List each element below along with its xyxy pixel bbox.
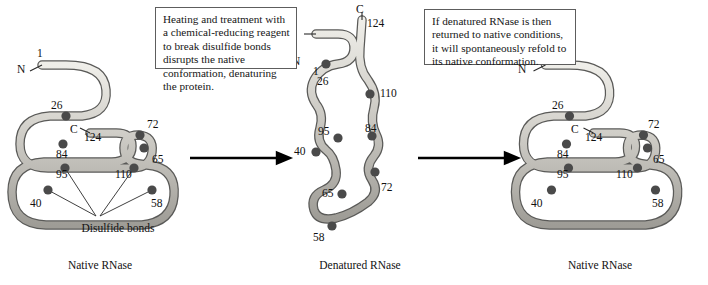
caption-denatured: Denatured RNase xyxy=(260,259,460,271)
arrow-renature xyxy=(418,153,518,164)
figure-canvas: 1 N 26 84 72 65 C 124 95 110 40 58 xyxy=(0,0,708,285)
caption-native-left: Native RNase xyxy=(0,259,200,271)
arrow-denature xyxy=(190,153,290,164)
caption-native-right: Native RNase xyxy=(500,259,700,271)
denature-callout-box: Heating and treatment with a chemical-re… xyxy=(155,7,297,69)
process-arrows xyxy=(0,0,708,285)
disulfide-bonds-annotation: Disulfide bonds xyxy=(48,222,188,234)
renature-callout-box: If denatured RNase is then returned to n… xyxy=(424,9,576,65)
